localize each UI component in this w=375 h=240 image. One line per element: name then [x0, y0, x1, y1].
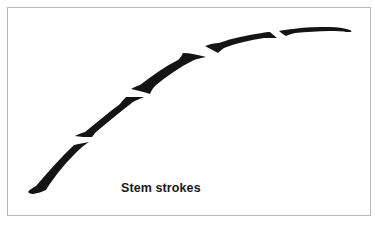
stem-stroke-4	[205, 32, 277, 53]
stem-stroke-2	[75, 97, 144, 137]
figure-caption: Stem strokes	[121, 181, 201, 195]
stem-stroke-3	[131, 53, 206, 94]
stem-stroke-1	[28, 142, 89, 194]
